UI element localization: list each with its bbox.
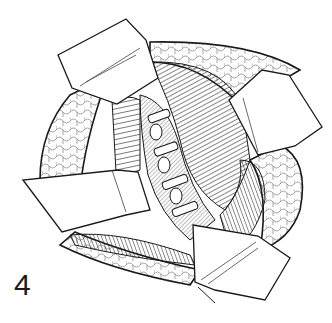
- ribbed-structure: [112, 97, 140, 175]
- surgical-illustration: [0, 0, 332, 323]
- figure-number-label: 4: [14, 270, 31, 300]
- retractor-upper-left: [58, 19, 158, 104]
- retractor-left: [23, 170, 150, 232]
